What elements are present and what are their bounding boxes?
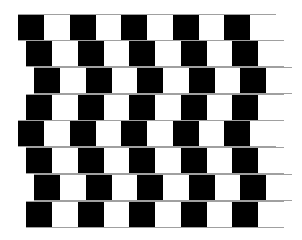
black-tile (232, 41, 258, 66)
black-tile (232, 148, 258, 173)
white-tile (155, 95, 181, 120)
black-tile (189, 175, 215, 200)
tile-row (18, 14, 276, 41)
black-tile (181, 41, 207, 66)
white-tile (96, 121, 122, 146)
black-tile (240, 175, 266, 200)
tile-row (26, 94, 284, 121)
white-tile (60, 68, 86, 93)
white-tile (60, 175, 86, 200)
black-tile (34, 68, 60, 93)
black-tile (18, 15, 44, 40)
black-tile (86, 175, 112, 200)
black-tile (70, 15, 96, 40)
white-tile (44, 121, 70, 146)
white-tile (155, 202, 181, 227)
tile-row (26, 201, 284, 228)
white-tile (163, 68, 189, 93)
white-tile (147, 15, 173, 40)
tile-row (34, 67, 292, 94)
white-tile (52, 95, 78, 120)
black-tile (78, 95, 104, 120)
white-tile (104, 95, 130, 120)
white-tile (104, 148, 130, 173)
black-tile (129, 148, 155, 173)
black-tile (121, 121, 147, 146)
white-tile (199, 121, 225, 146)
white-tile (104, 202, 130, 227)
black-tile (70, 121, 96, 146)
white-tile (52, 202, 78, 227)
white-tile (250, 121, 276, 146)
black-tile (86, 68, 112, 93)
black-tile (34, 175, 60, 200)
black-tile (181, 95, 207, 120)
black-tile (232, 95, 258, 120)
white-tile (96, 15, 122, 40)
white-tile (266, 175, 292, 200)
white-tile (207, 95, 233, 120)
cafe-wall-illusion (0, 0, 302, 240)
black-tile (18, 121, 44, 146)
black-tile (121, 15, 147, 40)
white-tile (44, 15, 70, 40)
white-tile (52, 148, 78, 173)
white-tile (104, 41, 130, 66)
black-tile (137, 175, 163, 200)
white-tile (155, 41, 181, 66)
black-tile (224, 15, 250, 40)
white-tile (258, 202, 284, 227)
tile-row (26, 40, 284, 67)
black-tile (173, 15, 199, 40)
white-tile (266, 68, 292, 93)
black-tile (129, 41, 155, 66)
white-tile (250, 15, 276, 40)
white-tile (258, 95, 284, 120)
white-tile (207, 202, 233, 227)
white-tile (215, 175, 241, 200)
white-tile (163, 175, 189, 200)
black-tile (129, 202, 155, 227)
white-tile (199, 15, 225, 40)
white-tile (52, 41, 78, 66)
black-tile (232, 202, 258, 227)
black-tile (240, 68, 266, 93)
black-tile (78, 148, 104, 173)
black-tile (26, 95, 52, 120)
black-tile (137, 68, 163, 93)
tile-row (18, 120, 276, 147)
black-tile (173, 121, 199, 146)
white-tile (207, 148, 233, 173)
black-tile (26, 202, 52, 227)
white-tile (147, 121, 173, 146)
white-tile (155, 148, 181, 173)
black-tile (129, 95, 155, 120)
white-tile (258, 41, 284, 66)
tile-row (26, 147, 284, 174)
black-tile (224, 121, 250, 146)
black-tile (189, 68, 215, 93)
white-tile (112, 175, 138, 200)
black-tile (78, 41, 104, 66)
black-tile (26, 41, 52, 66)
black-tile (181, 202, 207, 227)
black-tile (78, 202, 104, 227)
white-tile (215, 68, 241, 93)
white-tile (258, 148, 284, 173)
black-tile (181, 148, 207, 173)
tile-row (34, 174, 292, 201)
black-tile (26, 148, 52, 173)
white-tile (112, 68, 138, 93)
white-tile (207, 41, 233, 66)
